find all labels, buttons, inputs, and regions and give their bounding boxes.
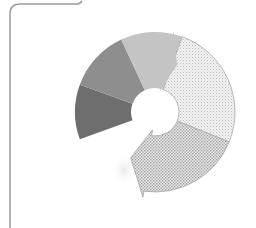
cycle-ring: [75, 31, 235, 197]
cycle-diagram: [0, 0, 256, 228]
frame-border: [10, 1, 82, 228]
